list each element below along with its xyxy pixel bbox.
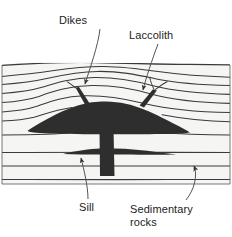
label-sedimentary-line2: rocks bbox=[130, 216, 157, 228]
cross-section-drawing bbox=[0, 0, 232, 237]
label-dikes: Dikes bbox=[59, 14, 87, 27]
label-sedimentary-line1: Sedimentary bbox=[130, 203, 193, 215]
laccolith-diagram-figure: Dikes Laccolith Sill Sedimentaryrocks bbox=[0, 0, 232, 237]
feeder-dike-shape bbox=[100, 128, 115, 176]
label-laccolith: Laccolith bbox=[129, 29, 173, 42]
label-sill: Sill bbox=[79, 201, 94, 214]
label-sedimentary-rocks: Sedimentaryrocks bbox=[130, 203, 193, 229]
